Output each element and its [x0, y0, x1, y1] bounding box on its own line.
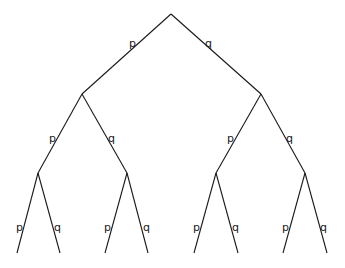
label-l1-left: p [129, 37, 136, 50]
label-l2-1: q [108, 132, 115, 145]
edge-l1a-q [82, 94, 127, 173]
label-l3-0: p [16, 221, 23, 234]
probability-tree-diagram: p q p q p q p q p q p q p q [0, 0, 345, 268]
label-l2-0: p [49, 132, 56, 145]
edge-l2a-p [17, 173, 38, 253]
branch-labels: p q p q p q p q p q p q p q [16, 37, 327, 234]
edge-l2c-p [194, 173, 216, 253]
label-l3-1: q [54, 221, 61, 234]
edge-l2b-p [105, 173, 127, 253]
label-l3-6: p [282, 221, 289, 234]
edge-l1b-q [261, 94, 305, 173]
edge-l2c-q [216, 173, 238, 253]
edge-root-p [82, 14, 171, 94]
edge-l2b-q [127, 173, 148, 253]
edge-l1a-p [38, 94, 82, 173]
edges [17, 14, 327, 253]
label-l3-4: p [193, 221, 200, 234]
edge-l2d-p [283, 173, 305, 253]
edge-l2a-q [38, 173, 60, 253]
edge-l2d-q [305, 173, 327, 253]
label-l1-right: q [205, 37, 212, 50]
label-l3-7: q [320, 221, 327, 234]
label-l3-5: q [232, 221, 239, 234]
label-l3-3: q [143, 221, 150, 234]
edge-root-q [171, 14, 261, 94]
label-l3-2: p [104, 221, 111, 234]
label-l2-2: p [227, 132, 234, 145]
edge-l1b-p [216, 94, 261, 173]
label-l2-3: q [286, 132, 293, 145]
